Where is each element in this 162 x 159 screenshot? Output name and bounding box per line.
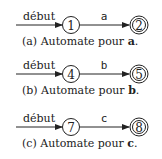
transition-symbol: a [101, 10, 108, 23]
start-label: début [23, 10, 56, 23]
automaton-c: début 7 c 8 (c) Automate pour c. [16, 112, 148, 150]
caption-prefix: (c) Automate pour [22, 137, 127, 150]
automaton-a: début 1 a 2 (a) Automate pour a. [16, 10, 148, 48]
caption: (c) Automate pour c. [22, 137, 137, 150]
caption-prefix: (b) Automate pour [22, 84, 128, 97]
caption-symbol: a [128, 35, 135, 48]
automata-figure: début 1 a 2 (a) Automate pour a. début 4… [0, 0, 162, 159]
automaton-b: début 4 b 5 (b) Automate pour b. [16, 59, 148, 97]
start-state-label: 1 [67, 19, 75, 33]
start-label: début [23, 59, 56, 72]
transition-symbol: b [101, 59, 108, 72]
accept-state-label: 8 [135, 121, 143, 135]
caption-prefix: (a) Automate pour [22, 35, 128, 48]
caption: (a) Automate pour a. [22, 35, 138, 48]
caption: (b) Automate pour b. [22, 84, 139, 97]
caption-suffix: . [134, 137, 138, 150]
accept-state-label: 5 [135, 68, 143, 82]
start-state-label: 4 [67, 68, 75, 82]
caption-suffix: . [135, 35, 139, 48]
accept-state-label: 2 [135, 19, 143, 33]
start-state-label: 7 [67, 121, 75, 135]
transition-symbol: c [101, 112, 108, 125]
start-label: début [23, 112, 56, 125]
caption-suffix: . [136, 84, 140, 97]
